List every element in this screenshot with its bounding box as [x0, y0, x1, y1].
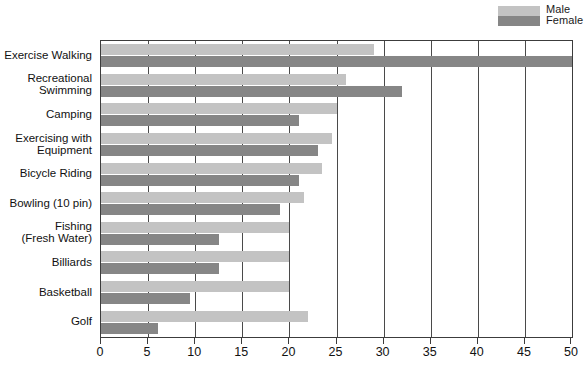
axis-tick: [524, 337, 525, 344]
axis-tick: [477, 337, 478, 344]
bar-male: [101, 281, 289, 292]
axis-tick-label: 30: [376, 345, 390, 359]
bar-female: [101, 323, 158, 334]
x-axis-labels: 05101520253035404550: [100, 345, 571, 365]
category-label: Bicycle Riding: [0, 158, 96, 188]
axis-tick: [336, 337, 337, 344]
bar-male: [101, 44, 374, 55]
axis-tick: [288, 337, 289, 344]
bar-male: [101, 311, 308, 322]
bar-chart: Male Female Exercise WalkingRecreational…: [0, 0, 588, 374]
legend-swatch-male: [498, 6, 540, 16]
axis-tick-label: 45: [517, 345, 531, 359]
category-label: Camping: [0, 99, 96, 129]
category-label: Fishing (Fresh Water): [0, 218, 96, 248]
bar-rows: [101, 41, 572, 337]
plot-area: [100, 40, 573, 338]
x-axis-ticks: [100, 337, 571, 344]
category-label: Exercise Walking: [0, 40, 96, 70]
legend-swatches: [498, 6, 540, 26]
bar-row: [101, 71, 572, 101]
category-axis-labels: Exercise WalkingRecreational SwimmingCam…: [0, 40, 96, 336]
bar-female: [101, 86, 402, 97]
axis-tick: [430, 337, 431, 344]
axis-tick-label: 40: [470, 345, 484, 359]
bar-female: [101, 234, 219, 245]
bar-row: [101, 100, 572, 130]
axis-tick: [241, 337, 242, 344]
bar-row: [101, 41, 572, 71]
bar-female: [101, 145, 318, 156]
bar-female: [101, 293, 190, 304]
bar-row: [101, 248, 572, 278]
category-label: Golf: [0, 306, 96, 336]
legend-label-female: Female: [546, 15, 583, 26]
axis-tick-label: 50: [564, 345, 578, 359]
axis-tick-label: 15: [234, 345, 248, 359]
bar-row: [101, 219, 572, 249]
axis-tick-label: 10: [187, 345, 201, 359]
legend-swatch-female: [498, 16, 540, 26]
bar-female: [101, 115, 299, 126]
category-label: Basketball: [0, 277, 96, 307]
axis-tick: [100, 337, 101, 344]
axis-tick-label: 20: [281, 345, 295, 359]
axis-tick-label: 5: [144, 345, 151, 359]
bar-row: [101, 307, 572, 337]
bar-male: [101, 251, 289, 262]
axis-tick: [147, 337, 148, 344]
bar-female: [101, 263, 219, 274]
category-label: Billiards: [0, 247, 96, 277]
legend-label-male: Male: [546, 4, 583, 15]
axis-tick: [570, 337, 571, 344]
bar-female: [101, 204, 280, 215]
axis-tick-label: 35: [423, 345, 437, 359]
axis-tick-label: 0: [97, 345, 104, 359]
category-label: Exercising with Equipment: [0, 129, 96, 159]
category-label: Recreational Swimming: [0, 70, 96, 100]
bar-male: [101, 133, 332, 144]
axis-tick: [194, 337, 195, 344]
legend-labels: Male Female: [546, 4, 583, 25]
axis-tick: [383, 337, 384, 344]
bar-row: [101, 159, 572, 189]
bar-male: [101, 222, 289, 233]
bar-male: [101, 192, 304, 203]
bar-row: [101, 278, 572, 308]
bar-female: [101, 175, 299, 186]
bar-row: [101, 130, 572, 160]
chart-legend: Male Female: [498, 4, 583, 26]
bar-male: [101, 103, 337, 114]
bar-female: [101, 56, 572, 67]
category-label: Bowling (10 pin): [0, 188, 96, 218]
bar-male: [101, 163, 322, 174]
bar-male: [101, 74, 346, 85]
axis-tick-label: 25: [329, 345, 343, 359]
bar-row: [101, 189, 572, 219]
